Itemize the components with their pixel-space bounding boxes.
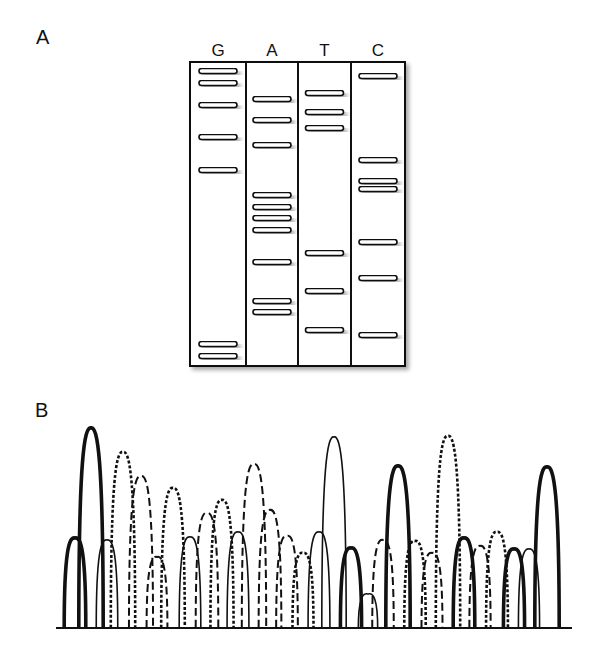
peak-a <box>147 557 168 628</box>
peak-g <box>535 467 559 628</box>
peak-c <box>210 500 233 628</box>
peak-t <box>308 532 330 628</box>
peak-a <box>129 476 153 628</box>
peak-g <box>453 538 475 628</box>
peak-c <box>111 452 135 628</box>
peak-a <box>259 510 282 628</box>
peak-g <box>79 428 103 628</box>
peak-t <box>227 532 249 628</box>
peak-a <box>422 553 443 628</box>
peak-g <box>64 538 86 628</box>
peak-c <box>436 436 460 628</box>
chromatogram <box>0 0 594 668</box>
peak-a <box>372 540 394 628</box>
peak-t <box>96 540 118 628</box>
